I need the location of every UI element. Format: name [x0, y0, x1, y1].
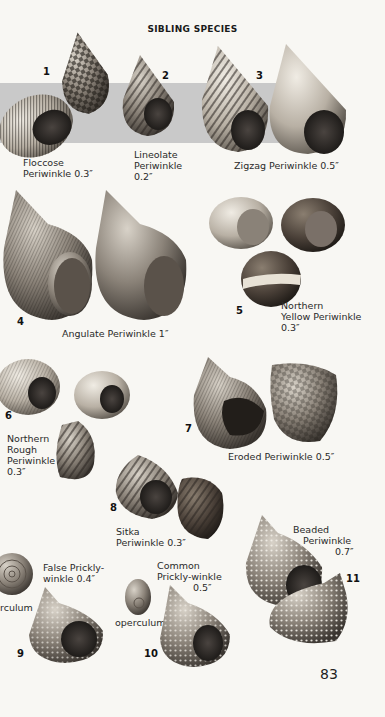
page-number: 83: [320, 666, 338, 682]
species-caption: Angulate Periwinkle 1″: [62, 328, 168, 339]
species-caption: Beaded Periwinkle 0.7″: [293, 524, 354, 557]
species-number: 9: [17, 648, 24, 659]
lineolate-periwinkle-illustration: [118, 50, 183, 150]
species-number: 1: [43, 66, 50, 77]
eroded-periwinkle-illustration: [190, 355, 350, 450]
species-number: 7: [185, 423, 192, 434]
species-number: 11: [346, 573, 360, 584]
species-caption: Lineolate Periwinkle 0.2″: [134, 149, 182, 182]
species-caption: Common Prickly-winkle 0.5″: [157, 560, 222, 593]
species-caption: False Prickly- winkle 0.4″: [43, 562, 104, 584]
species-number: 4: [17, 316, 24, 327]
species-number: 2: [162, 70, 169, 81]
species-caption: Northern Rough Periwinkle 0.3″: [7, 433, 55, 477]
species-number: 3: [256, 70, 263, 81]
floccose-periwinkle-illustration: [0, 30, 120, 160]
false-pricklywinkle-illustration: [25, 585, 110, 665]
common-pricklywinkle-operculum-illustration: [122, 577, 157, 617]
species-number: 6: [5, 410, 12, 421]
zigzag-periwinkle-illustration: [198, 40, 358, 160]
species-number: 5: [236, 305, 243, 316]
species-caption: Sitka Periwinkle 0.3″: [116, 526, 186, 548]
species-caption: Zigzag Periwinkle 0.5″: [234, 160, 339, 171]
species-caption: Floccose Periwinkle 0.3″: [23, 157, 93, 179]
angulate-periwinkle-illustration: [0, 188, 200, 323]
species-caption: Eroded Periwinkle 0.5″: [228, 451, 334, 462]
species-number: 8: [110, 502, 117, 513]
common-pricklywinkle-illustration: [158, 583, 233, 668]
species-caption: Northern Yellow Periwinkle 0.3″: [281, 300, 361, 333]
species-number: 10: [144, 648, 158, 659]
northern-yellow-periwinkle-illustration: [205, 195, 360, 310]
